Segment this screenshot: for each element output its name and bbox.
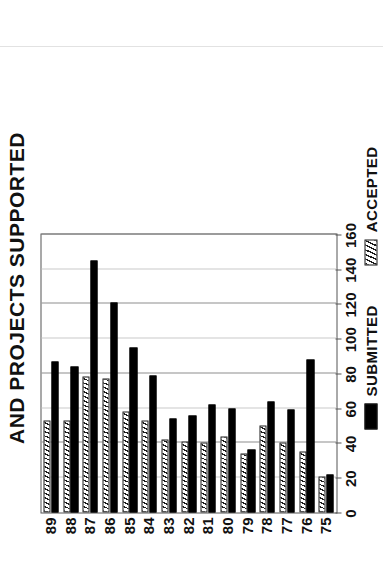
bar-submitted-88 [70, 366, 77, 512]
value-tick-mark [335, 338, 341, 339]
bar-accepted-87 [82, 376, 89, 512]
category-tick-label-77: 77 [277, 517, 294, 545]
bar-submitted-83 [169, 418, 176, 512]
legend-entry-submitted: SUBMITTED [362, 305, 379, 429]
bar-accepted-89 [43, 420, 50, 512]
bar-submitted-82 [188, 415, 195, 512]
chart-legend: SUBMITTEDACCEPTED [362, 0, 379, 575]
bar-group-75 [316, 234, 336, 512]
bar-group-83 [159, 234, 179, 512]
bar-accepted-77 [279, 443, 286, 513]
bar-group-82 [179, 234, 199, 512]
category-tick-label-83: 83 [159, 517, 176, 545]
bar-submitted-80 [228, 408, 235, 512]
bar-accepted-76 [299, 451, 306, 512]
bar-accepted-79 [240, 453, 247, 512]
bar-accepted-83 [161, 439, 168, 512]
bar-accepted-80 [220, 436, 227, 512]
bar-accepted-82 [181, 441, 188, 512]
bar-submitted-78 [267, 401, 274, 512]
bar-group-87 [80, 234, 100, 512]
bar-group-89 [41, 234, 61, 512]
bar-submitted-85 [129, 347, 136, 512]
solid-black-swatch [364, 403, 377, 429]
value-tick-mark [335, 408, 341, 409]
rotated-figure-wrapper: AND PROJECTS SUPPORTED 02040608010012014… [0, 0, 383, 575]
bar-submitted-86 [110, 302, 117, 512]
scan-artifact-line [0, 46, 383, 47]
bar-submitted-81 [208, 404, 215, 512]
bar-accepted-84 [141, 420, 148, 512]
value-tick-mark [335, 304, 341, 305]
bar-accepted-85 [122, 411, 129, 512]
value-tick-mark [335, 477, 341, 478]
category-tick-label-87: 87 [80, 517, 97, 545]
hatched-swatch [364, 239, 377, 265]
value-tick-mark [335, 269, 341, 270]
bar-submitted-75 [326, 474, 333, 512]
category-tick-label-84: 84 [139, 517, 156, 545]
bar-submitted-76 [306, 359, 313, 512]
value-tick-mark [335, 234, 341, 235]
value-tick-mark [335, 443, 341, 444]
bar-submitted-84 [149, 375, 156, 512]
value-tick-label: 160 [341, 210, 358, 260]
bar-submitted-87 [90, 260, 97, 512]
bar-submitted-77 [287, 410, 294, 513]
bar-accepted-78 [259, 425, 266, 512]
category-tick-label-82: 82 [179, 517, 196, 545]
plot-area [40, 233, 337, 513]
bar-group-85 [120, 234, 140, 512]
bar-group-78 [257, 234, 277, 512]
value-tick-mark [335, 512, 341, 513]
category-tick-label-81: 81 [198, 517, 215, 545]
bar-submitted-89 [51, 361, 58, 512]
legend-entry-accepted: ACCEPTED [362, 146, 379, 265]
bar-accepted-81 [200, 443, 207, 513]
category-tick-label-85: 85 [120, 517, 137, 545]
bar-group-88 [61, 234, 81, 512]
chart-figure: AND PROJECTS SUPPORTED 02040608010012014… [0, 0, 383, 575]
bar-group-81 [198, 234, 218, 512]
bar-group-79 [238, 234, 258, 512]
category-tick-label-89: 89 [41, 517, 58, 545]
chart-title: AND PROJECTS SUPPORTED [4, 0, 28, 575]
bar-group-76 [297, 234, 317, 512]
bar-group-77 [277, 234, 297, 512]
category-tick-label-88: 88 [61, 517, 78, 545]
bar-group-80 [218, 234, 238, 512]
category-tick-label-80: 80 [218, 517, 235, 545]
value-tick-mark [335, 373, 341, 374]
category-tick-label-86: 86 [100, 517, 117, 545]
category-tick-label-75: 75 [316, 517, 333, 545]
category-tick-label-79: 79 [238, 517, 255, 545]
legend-label: ACCEPTED [362, 146, 379, 232]
bar-group-86 [100, 234, 120, 512]
bar-submitted-79 [247, 449, 254, 512]
bar-accepted-88 [63, 420, 70, 512]
category-tick-label-78: 78 [257, 517, 274, 545]
bar-accepted-75 [318, 476, 325, 512]
bar-accepted-86 [102, 378, 109, 512]
legend-label: SUBMITTED [362, 305, 379, 396]
category-tick-label-76: 76 [297, 517, 314, 545]
bar-group-84 [139, 234, 159, 512]
